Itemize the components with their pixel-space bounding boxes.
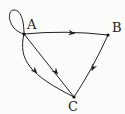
edge-a-b <box>24 32 108 35</box>
edge-b-c <box>74 35 108 97</box>
edge-a-a-loop <box>9 10 24 34</box>
node-a <box>22 32 25 35</box>
node-b-label: B <box>112 20 122 35</box>
node-b <box>106 33 109 36</box>
edge-a-c-straight <box>24 34 74 97</box>
node-a-label: A <box>26 17 37 32</box>
graph-canvas: A B C <box>0 0 125 114</box>
node-c-label: C <box>68 99 78 114</box>
